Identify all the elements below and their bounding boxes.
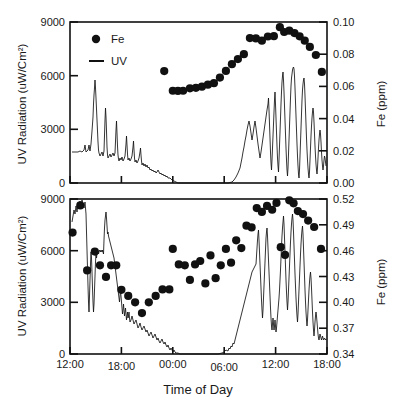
fe-data-point	[222, 245, 230, 253]
fe-data-point	[124, 292, 132, 300]
fe-data-point	[310, 223, 318, 231]
top-panel-legend: Fe UV	[89, 33, 127, 67]
top-panel-x-ticks	[70, 176, 327, 183]
xtick-12-00-a: 12:00	[56, 358, 84, 370]
legend-uv-label: UV	[111, 55, 127, 67]
fe-data-point	[181, 261, 189, 269]
bottom-panel-right-axis-title: Fe (ppm)	[375, 259, 387, 306]
fe-data-point	[165, 285, 173, 293]
fe-data-point	[112, 261, 120, 269]
top-panel-ytick-3000: 3000	[41, 123, 65, 135]
fe-data-point	[68, 228, 76, 236]
top-panel-y2tick-0.08: 0.08	[333, 48, 354, 60]
fe-data-point	[210, 79, 218, 87]
fe-data-point	[201, 279, 209, 287]
top-panel-left-axis-title: UV Radiation (uW/Cm²)	[16, 43, 28, 164]
xtick-12-00-b: 12:00	[262, 358, 290, 370]
xtick-06-00: 06:00	[210, 361, 238, 373]
fe-data-point	[248, 223, 256, 231]
fe-data-point	[240, 50, 248, 58]
fe-data-point	[83, 266, 91, 274]
fe-data-point	[217, 261, 225, 269]
fe-data-point	[169, 245, 177, 253]
top-panel-fe-points	[160, 23, 326, 95]
bottom-panel-y2tick-0.43: 0.43	[333, 271, 354, 283]
fe-data-point	[306, 43, 314, 51]
fe-data-point	[196, 257, 204, 265]
fe-data-point	[117, 286, 125, 294]
top-panel-ytick-6000: 6000	[41, 70, 65, 82]
fe-data-point	[216, 73, 224, 81]
x-axis-title: Time of Day	[163, 382, 233, 397]
fe-data-point	[91, 247, 99, 255]
bottom-panel-left-ticks	[70, 199, 78, 354]
figure-container: UV Radiation (uW/Cm²) Fe (ppm) 0 3000 60…	[0, 0, 396, 401]
top-panel-y2tick-0.06: 0.06	[333, 80, 354, 92]
bottom-panel-y2tick-0.46: 0.46	[333, 245, 354, 257]
bottom-panel-ytick-9000: 9000	[41, 193, 65, 205]
bottom-panel-ytick-3000: 3000	[41, 296, 65, 308]
fe-data-point	[96, 261, 104, 269]
top-panel-ytick-0: 0	[59, 177, 65, 189]
top-panel-chart: UV Radiation (uW/Cm²) Fe (ppm) 0 3000 60…	[0, 0, 396, 192]
fe-data-point	[186, 276, 194, 284]
fe-data-point	[227, 259, 235, 267]
fe-data-point	[270, 32, 278, 40]
bottom-panel-y2tick-0.37: 0.37	[333, 322, 354, 334]
bottom-panel-uv-line	[72, 200, 326, 354]
fe-data-point	[268, 206, 276, 214]
bottom-panel-left-axis-title: UV Radiation (uW/Cm²)	[16, 215, 28, 336]
xtick-18-00-b: 18:00	[313, 358, 341, 370]
fe-data-point	[304, 216, 312, 224]
bottom-panel-y2tick-0.52: 0.52	[333, 193, 354, 205]
bottom-panel-y2tick-0.49: 0.49	[333, 219, 354, 231]
fe-data-point	[289, 199, 297, 207]
bottom-panel-right-ticks	[319, 199, 327, 354]
top-panel-y2tick-0.02: 0.02	[333, 145, 354, 157]
fe-data-point	[102, 273, 110, 281]
fe-data-point	[131, 298, 139, 306]
xtick-18-00-a: 18:00	[108, 360, 136, 372]
top-panel-right-ticks	[319, 22, 327, 183]
fe-data-point	[222, 67, 230, 75]
fe-data-point	[317, 245, 325, 253]
fe-data-point	[145, 298, 153, 306]
bottom-panel-chart: UV Radiation (uW/Cm²) Fe (ppm) 0 3000 60…	[0, 192, 396, 401]
fe-data-point	[281, 251, 289, 259]
fe-data-point	[312, 51, 320, 59]
fe-data-point	[277, 243, 285, 251]
fe-data-point	[138, 309, 146, 317]
top-panel-left-ticks	[70, 22, 78, 183]
fe-data-point	[299, 210, 307, 218]
fe-data-point	[318, 68, 326, 76]
bottom-panel-y2tick-0.40: 0.40	[333, 296, 354, 308]
fe-data-point	[272, 199, 280, 207]
bottom-panel-x-ticks	[70, 347, 327, 354]
legend-fe-label: Fe	[111, 33, 124, 45]
fe-data-point	[152, 292, 160, 300]
top-panel-y2tick-0.04: 0.04	[333, 113, 354, 125]
bottom-panel-ytick-6000: 6000	[41, 245, 65, 257]
fe-data-point	[160, 67, 168, 75]
top-panel-ytick-9000: 9000	[41, 16, 65, 28]
fe-data-point	[76, 201, 84, 209]
legend-fe-marker-icon	[92, 35, 100, 43]
xtick-00-00: 00:00	[159, 358, 187, 370]
fe-data-point	[212, 274, 220, 282]
top-panel-y2tick-0.10: 0.10	[333, 16, 354, 28]
top-panel-y2tick-0.00: 0.00	[333, 177, 354, 189]
top-panel-right-axis-title: Fe (ppm)	[375, 81, 387, 128]
fe-data-point	[232, 236, 240, 244]
fe-data-point	[237, 244, 245, 252]
fe-data-point	[206, 251, 214, 259]
